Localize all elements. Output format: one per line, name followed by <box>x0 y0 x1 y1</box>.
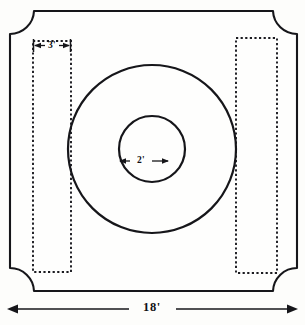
slab-outline <box>10 11 297 291</box>
overall-width-dimension: 18' <box>7 300 298 314</box>
form-width-label: 3' <box>48 40 56 50</box>
diagram-canvas: 3' 2' 18' <box>0 0 305 325</box>
inner-diameter-label: 2' <box>137 155 145 165</box>
overall-width-label: 18' <box>143 300 161 314</box>
slab-plan-drawing: 3' 2' 18' <box>0 0 305 325</box>
arrow-left-18ft <box>7 305 18 314</box>
arrow-right-18ft <box>287 305 298 314</box>
